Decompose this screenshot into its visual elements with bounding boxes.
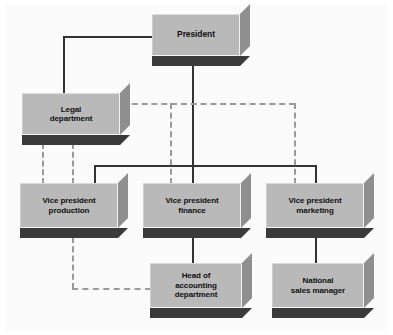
- node-legal-department-shadow: [22, 135, 131, 146]
- connector-legal-to-vp-finance: [170, 103, 172, 184]
- node-vice-president-production-shadow: [20, 228, 129, 239]
- connector-legal-to-vp-production-a: [42, 143, 44, 184]
- node-head-of-accounting-department[interactable]: Head of accounting department: [150, 263, 242, 308]
- connector-bus-to-vp-finance: [192, 165, 194, 184]
- connector-vp-production-to-head-accounting-horizontal: [72, 288, 151, 290]
- node-president[interactable]: President: [152, 14, 240, 56]
- node-vice-president-production[interactable]: Vice president production: [20, 183, 118, 228]
- org-chart-diagram: President Legal department Vice presiden…: [0, 0, 393, 335]
- connector-legal-to-vp-marketing: [294, 103, 296, 184]
- node-vice-president-finance-shadow: [143, 228, 252, 239]
- connector-vp-marketing-to-national-sales: [315, 237, 317, 264]
- connector-bus-to-vp-marketing: [315, 165, 317, 184]
- node-vice-president-marketing[interactable]: Vice president marketing: [266, 183, 364, 228]
- node-national-sales-manager-label: National sales manager: [288, 276, 348, 295]
- node-national-sales-manager-face: National sales manager: [272, 263, 364, 308]
- connector-vp-bus: [94, 165, 317, 167]
- connector-legal-to-vp-production-b: [72, 143, 74, 184]
- node-vice-president-marketing-shadow: [266, 228, 375, 239]
- connector-bus-to-vp-production: [94, 165, 96, 184]
- connector-president-trunk: [192, 64, 194, 166]
- node-national-sales-manager[interactable]: National sales manager: [272, 263, 364, 308]
- node-legal-department[interactable]: Legal department: [22, 93, 120, 135]
- node-legal-department-label: Legal department: [47, 105, 96, 124]
- node-vice-president-finance-label: Vice president finance: [162, 196, 221, 215]
- connector-president-to-legal-horizontal: [63, 36, 153, 38]
- node-head-of-accounting-department-label: Head of accounting department: [172, 271, 221, 300]
- node-vice-president-production-label: Vice president production: [39, 196, 98, 215]
- node-head-of-accounting-department-shadow: [150, 308, 253, 319]
- node-national-sales-manager-shadow: [272, 308, 375, 319]
- node-vice-president-marketing-face: Vice president marketing: [266, 183, 364, 228]
- node-vice-president-finance[interactable]: Vice president finance: [143, 183, 241, 228]
- node-vice-president-production-face: Vice president production: [20, 183, 118, 228]
- node-president-shadow: [152, 56, 251, 67]
- connector-legal-advisory-horizontal: [122, 103, 295, 105]
- node-legal-department-face: Legal department: [22, 93, 120, 135]
- connector-president-to-legal-vertical: [63, 36, 65, 94]
- node-head-of-accounting-department-face: Head of accounting department: [150, 263, 242, 308]
- connector-vp-finance-to-head-accounting: [192, 237, 194, 264]
- node-president-label: President: [174, 30, 218, 40]
- node-vice-president-finance-face: Vice president finance: [143, 183, 241, 228]
- connector-vp-production-to-head-accounting-vertical: [72, 237, 74, 289]
- node-president-face: President: [152, 14, 240, 56]
- node-vice-president-marketing-label: Vice president marketing: [285, 196, 344, 215]
